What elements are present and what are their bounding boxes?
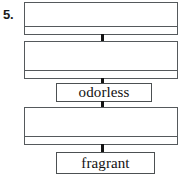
flow-node-odorless[interactable]: odorless — [56, 83, 152, 102]
node-divider — [25, 70, 177, 71]
flow-node-blank-2[interactable] — [24, 41, 178, 79]
flow-node-blank-1[interactable] — [24, 2, 178, 35]
exercise-number: 5. — [3, 8, 13, 21]
flow-diagram-canvas: 5. odorless fragrant — [0, 0, 187, 184]
node-divider — [25, 26, 177, 27]
flow-node-label: fragrant — [81, 156, 129, 171]
flow-node-label: odorless — [79, 85, 130, 100]
node-divider — [25, 136, 177, 137]
flow-node-fragrant[interactable]: fragrant — [56, 152, 155, 174]
flow-node-blank-3[interactable] — [24, 107, 178, 145]
